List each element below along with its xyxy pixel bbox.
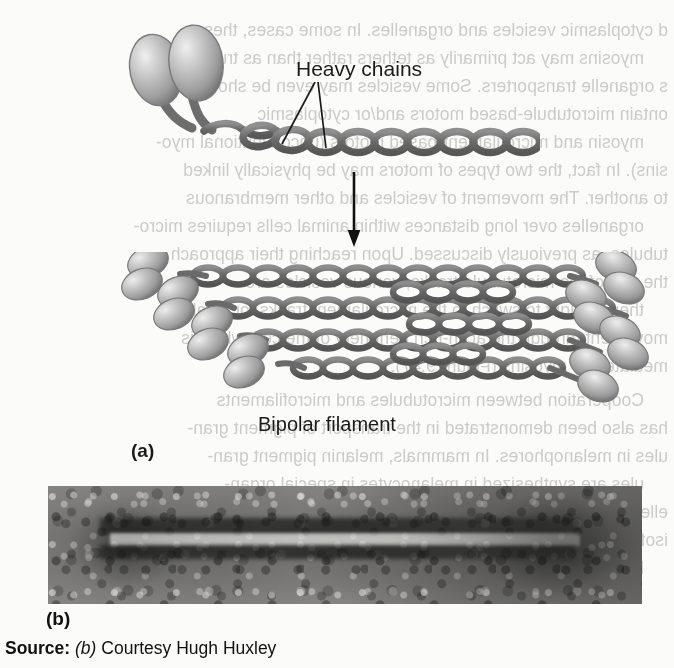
myosin-head-pair [123,22,227,111]
bipolar-filament-label: Bipolar filament [258,413,396,436]
heavy-chains-leader-lines [270,82,390,148]
micrograph-shaft-dark-lower [100,545,575,559]
source-credit: Source: (b) Courtesy Hugh Huxley [5,638,276,659]
panel-a-label: (a) [131,440,154,462]
source-credit-text: Courtesy Hugh Huxley [101,638,276,658]
heavy-chains-label: Heavy chains [296,57,422,81]
bipolar-filament-diagram [108,252,668,412]
electron-micrograph-image [48,486,642,604]
source-panel-ref: (b) [75,638,96,658]
filament-strand-1 [193,268,583,285]
figure-page: d cytoplasmic vesicles and organelles. I… [0,0,674,668]
assembly-arrow-icon [344,172,364,248]
source-key: Source: [5,638,70,658]
panel-b-label: (b) [46,608,70,630]
